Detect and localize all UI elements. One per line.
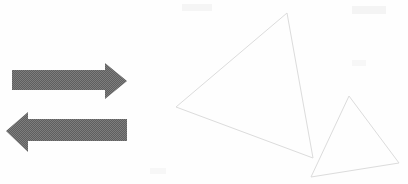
figure-canvas [0, 0, 408, 184]
smudge-bottom-left [150, 168, 166, 174]
shapes-figure [0, 0, 408, 184]
figure-background [0, 0, 408, 184]
smudge-top-right [352, 6, 386, 14]
smudge-top-left [182, 4, 212, 11]
smudge-mid-right [352, 60, 366, 66]
